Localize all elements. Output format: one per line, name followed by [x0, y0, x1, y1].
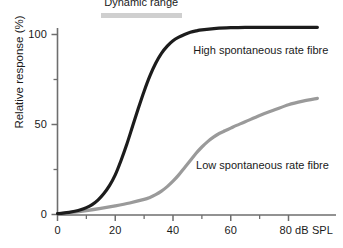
- x-tick-label-80-db-spl: 80 dB SPL: [280, 224, 334, 236]
- y-tick-label-50: 50: [0, 118, 47, 130]
- series-line-low-spontaneous-rate-fibre: [58, 98, 318, 213]
- y-axis-ticks: [52, 35, 58, 215]
- y-tick-label-100: 100: [0, 28, 47, 40]
- x-axis-ticks: [58, 215, 289, 221]
- series-label-high-spontaneous-rate-fibre: High spontaneous rate fibre: [193, 44, 328, 56]
- y-tick-label-0: 0: [0, 208, 47, 220]
- series-label-low-spontaneous-rate-fibre: Low spontaneous rate fibre: [196, 159, 329, 171]
- annotation-dynamic-range-bar: [101, 13, 182, 18]
- x-tick-label-20: 20: [109, 224, 121, 236]
- chart-canvas: [0, 0, 343, 248]
- x-tick-label-40: 40: [167, 224, 179, 236]
- annotation-dynamic-range-label: Dynamic range: [104, 0, 178, 8]
- x-tick-label-60: 60: [225, 224, 237, 236]
- x-tick-label-0: 0: [54, 224, 60, 236]
- chart-figure: Relative response (%) 100 50 0 0 20 40 6…: [0, 0, 343, 248]
